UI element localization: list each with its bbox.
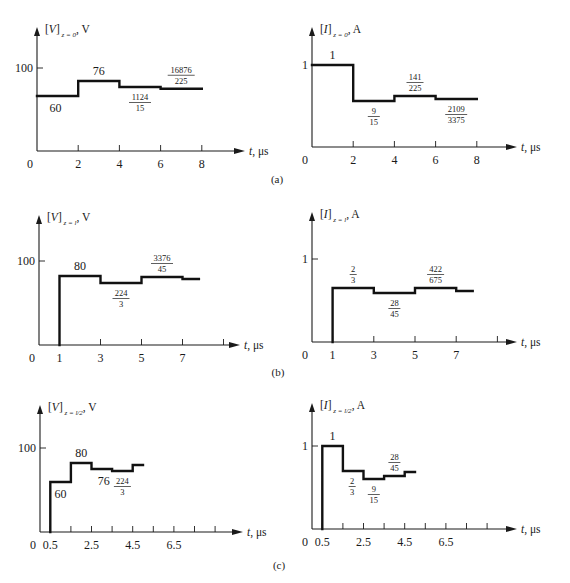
y-axis-title: [V] z = l, V (47, 211, 91, 227)
x-axis-label: t, μs (244, 339, 264, 352)
fraction-label: 422675 (427, 264, 444, 285)
origin-label: 0 (30, 538, 36, 552)
level-label: 1 (330, 48, 336, 62)
fraction-label: 2243 (113, 288, 130, 309)
caption-a: (a) (271, 173, 284, 186)
y-tick-label: 100 (15, 61, 33, 75)
fraction-denominator: 45 (390, 463, 399, 473)
fraction-label: 915 (368, 484, 380, 505)
x-tick-label: 0.5 (315, 535, 330, 549)
level-label: 60 (55, 487, 67, 501)
plot-b-voltage: 10001357t, μs[V] z = l, V802243337645 (17, 211, 264, 365)
fraction-denominator: 225 (409, 83, 422, 93)
fraction-label: 2845 (388, 298, 400, 319)
y-tick-label: 100 (17, 254, 35, 268)
y-tick-label: 1 (302, 252, 308, 266)
x-axis-label: t, μs (249, 145, 269, 158)
fraction-label: 23 (349, 476, 356, 497)
fraction-numerator: 2 (351, 264, 355, 274)
x-tick-label: 2 (350, 153, 356, 167)
y-axis-title: [V] z = l/2, V (48, 401, 97, 417)
x-axis-arrow-icon (506, 144, 517, 150)
x-tick-label: 5 (412, 348, 418, 362)
x-tick-label: 6.5 (166, 538, 181, 552)
y-axis-arrow-icon (309, 212, 315, 221)
level-label: 60 (50, 101, 62, 115)
x-axis-arrow-icon (506, 526, 517, 532)
x-tick-label: 5 (139, 351, 145, 365)
y-tick-label: 1 (302, 58, 308, 72)
step-waveform (60, 276, 199, 345)
fraction-label: 915 (368, 106, 380, 127)
origin-label: 0 (302, 535, 308, 549)
level-label: 1 (330, 429, 336, 443)
fraction-numerator: 422 (429, 264, 442, 274)
x-tick-label: 8 (199, 157, 205, 171)
x-tick-label: 1 (57, 351, 63, 365)
x-tick-label: 4 (116, 157, 122, 171)
y-axis-arrow-icon (37, 405, 43, 414)
fraction-numerator: 16876 (171, 65, 192, 75)
fraction-numerator: 28 (390, 298, 399, 308)
fraction-label: 21093375 (445, 104, 467, 125)
fraction-label: 337645 (151, 253, 173, 274)
y-tick-label: 100 (18, 441, 36, 455)
step-waveform (333, 288, 473, 342)
x-axis-arrow-icon (506, 339, 517, 345)
x-tick-label: 8 (474, 153, 480, 167)
plot-b-current: 101357t, μs[I] z = l, A232845422675 (302, 208, 541, 362)
x-axis-label: t, μs (521, 336, 541, 349)
y-axis-arrow-icon (36, 215, 42, 224)
fraction-label: 141225 (407, 72, 424, 93)
x-tick-label: 2.5 (356, 535, 371, 549)
x-tick-label: 6 (433, 153, 439, 167)
y-axis-title: [I] z = l/2, A (320, 399, 366, 415)
x-axis-arrow-icon (232, 529, 243, 535)
figure-canvas: 10002468t, μs[V] z = 0, V607611241516876… (0, 0, 570, 583)
y-axis-arrow-icon (309, 27, 315, 36)
fraction-numerator: 2 (350, 476, 354, 486)
x-axis-label: t, μs (521, 141, 541, 154)
fraction-numerator: 224 (115, 288, 129, 298)
plot-a-current: 102468t, μs[I] z = 0, A19151412252109337… (302, 23, 541, 167)
y-axis-title: [V] z = 0, V (45, 23, 90, 39)
x-tick-label: 7 (180, 351, 186, 365)
x-axis-arrow-icon (229, 342, 240, 348)
x-axis-label: t, μs (521, 523, 541, 536)
level-label: 80 (74, 259, 86, 273)
fraction-label: 2845 (388, 452, 400, 473)
caption-b: (b) (272, 366, 285, 379)
fraction-denominator: 45 (158, 264, 167, 274)
plot-a-voltage: 10002468t, μs[V] z = 0, V607611241516876… (15, 23, 269, 171)
x-axis-label: t, μs (247, 526, 267, 539)
fraction-denominator: 3 (350, 487, 354, 497)
y-axis-arrow-icon (34, 27, 40, 36)
fraction-denominator: 3375 (448, 115, 465, 125)
fraction-numerator: 28 (390, 452, 399, 462)
plot-c-current: 100.52.54.56.5t, μs[I] z = l/2, A1239152… (302, 399, 541, 549)
fraction-denominator: 675 (429, 275, 442, 285)
fraction-denominator: 15 (370, 495, 379, 505)
fraction-denominator: 3 (119, 299, 123, 309)
x-axis-arrow-icon (234, 148, 245, 154)
fraction-numerator: 9 (372, 106, 376, 116)
step-waveform (312, 65, 477, 101)
fraction-denominator: 3 (351, 275, 355, 285)
x-tick-label: 3 (98, 351, 104, 365)
x-tick-label: 2 (75, 157, 81, 171)
origin-label: 0 (302, 348, 308, 362)
x-tick-label: 6.5 (438, 535, 453, 549)
fraction-numerator: 141 (409, 72, 422, 82)
fraction-denominator: 45 (390, 309, 399, 319)
y-axis-title: [I] z = l, A (320, 208, 360, 224)
fraction-label: 2243 (114, 476, 131, 497)
fraction-numerator: 9 (372, 484, 376, 494)
fraction-numerator: 1124 (132, 92, 149, 102)
level-label: 76 (98, 474, 110, 488)
origin-label: 0 (27, 157, 33, 171)
fraction-label: 112415 (129, 92, 151, 113)
x-tick-label: 6 (158, 157, 164, 171)
x-tick-label: 7 (453, 348, 459, 362)
y-tick-label: 1 (302, 439, 308, 453)
x-tick-label: 4 (391, 153, 397, 167)
